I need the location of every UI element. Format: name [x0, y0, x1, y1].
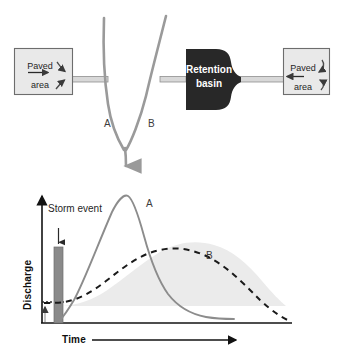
stream-label-b: B [148, 118, 155, 129]
discharge-axis-label: Discharge [22, 260, 33, 310]
retention-basin-label-line1: Retention [183, 64, 235, 76]
paved-area-left-label-line1: Paved [22, 61, 58, 72]
stream-a-path [104, 18, 124, 150]
storm-event-annotation: Storm event [48, 203, 88, 215]
pipe-right [236, 77, 284, 83]
paved-area-right-label-line1: Paved [288, 63, 318, 74]
stream-confluence-path [125, 148, 126, 166]
curve-label-b: B [206, 250, 213, 261]
stream-b-path [126, 16, 166, 150]
pipe-left [72, 77, 108, 83]
figure-canvas: Paved area Retention basin Paved area A … [0, 0, 344, 362]
diagram-svg [0, 0, 344, 362]
paved-area-left-label-line2: area [22, 80, 58, 91]
storm-event-bar [54, 247, 63, 323]
time-axis-label: Time [62, 334, 86, 345]
curve-label-a: A [146, 198, 153, 209]
retention-basin-label-line2: basin [183, 78, 235, 90]
paved-area-right-label-line2: area [288, 82, 318, 93]
stream-label-a: A [104, 118, 111, 129]
